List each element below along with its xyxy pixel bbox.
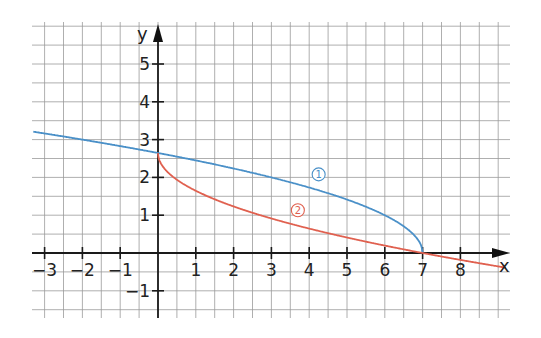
svg-text:2: 2 [295, 205, 301, 216]
x-tick-label: 8 [455, 260, 466, 280]
x-tick-label: 5 [342, 260, 353, 280]
x-tick-label: −2 [70, 260, 95, 280]
y-tick-label: 1 [139, 205, 150, 225]
curve-1 [33, 132, 422, 253]
x-tick-label: 4 [304, 260, 315, 280]
x-tick-label: 2 [228, 260, 239, 280]
x-tick-label: 1 [190, 260, 201, 280]
x-tick-label: 3 [266, 260, 277, 280]
y-axis-label: y [137, 23, 148, 44]
y-tick-label: −1 [125, 281, 150, 301]
curves [33, 132, 506, 268]
y-tick-label: 4 [139, 92, 150, 112]
x-tick-label: −3 [32, 260, 57, 280]
svg-text:1: 1 [315, 169, 321, 180]
x-tick-label: −1 [108, 260, 133, 280]
curve-2 [158, 153, 506, 268]
curve-labels: 12 [291, 168, 325, 217]
curve-marker-1: 1 [312, 168, 325, 181]
curve-marker-2: 2 [291, 204, 304, 217]
y-tick-label: 2 [139, 167, 150, 187]
y-axis-arrow-icon [153, 24, 163, 42]
x-tick-label: 7 [417, 260, 428, 280]
x-axis-label: x [499, 255, 510, 276]
y-tick-label: 3 [139, 130, 150, 150]
x-tick-label: 6 [379, 260, 390, 280]
y-tick-label: 5 [139, 54, 150, 74]
function-graph: −3−2−11234567854321−1 12 x y [0, 0, 541, 338]
